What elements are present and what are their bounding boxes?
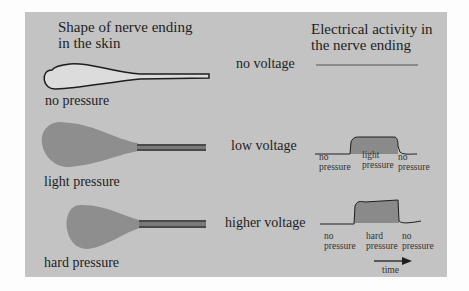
trace-high-label-during: hard pressure: [366, 231, 398, 251]
time-axis-label: time: [382, 265, 399, 275]
shape-label-no-pressure: no pressure: [45, 93, 109, 109]
left-header-line1: Shape of nerve ending: [58, 19, 193, 35]
voltage-label-none: no voltage: [236, 56, 295, 72]
voltage-label-low: low voltage: [231, 138, 297, 154]
trace-high-label-after: no pressure: [402, 231, 434, 251]
voltage-pulse-high-fill: [354, 200, 399, 223]
right-header-line2: the nerve ending: [311, 37, 433, 53]
trace-high-label-before: no pressure: [324, 231, 356, 251]
time-arrow-head-icon: [402, 257, 412, 265]
shape-label-light-pressure: light pressure: [44, 174, 120, 190]
voltage-label-higher: higher voltage: [225, 215, 305, 231]
nerve-ending-hard-pressure: [67, 205, 140, 249]
trace-low-label-during: light pressure: [362, 150, 394, 170]
nerve-ending-no-pressure: [44, 64, 209, 89]
trace-low-label-before: no pressure: [319, 152, 351, 172]
nerve-ending-light-pressure: [42, 122, 138, 167]
left-column-header: Shape of nerve ending in the skin: [58, 19, 193, 51]
shape-label-hard-pressure: hard pressure: [44, 255, 119, 271]
right-column-header: Electrical activity in the nerve ending: [311, 21, 433, 53]
trace-low-label-after: no pressure: [398, 152, 430, 172]
right-header-line1: Electrical activity in: [311, 21, 433, 37]
left-header-line2: in the skin: [58, 35, 193, 51]
